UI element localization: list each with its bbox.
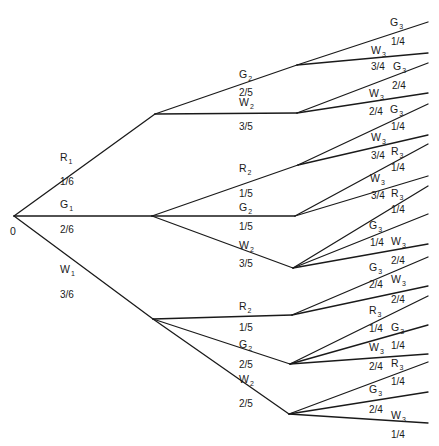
prob-level3-3: 2/4 [369, 107, 383, 117]
event-letter: R [391, 187, 399, 199]
draw-index: 3 [402, 67, 406, 74]
prob-R1: 1/6 [60, 177, 74, 187]
prob-level3-11: 2/4 [369, 280, 383, 290]
prob-G1-W2: 3/5 [239, 259, 253, 269]
branch-level3-17 [289, 392, 428, 414]
event-letter: G [369, 219, 377, 231]
event-letter: R [391, 145, 399, 157]
draw-index: 1 [71, 270, 75, 277]
label-W1-G2: G2 [239, 339, 252, 352]
branch-level2-G1-R2 [152, 165, 298, 216]
prob-R1-W2: 3/5 [239, 122, 253, 132]
label-level3-5: W3 [371, 132, 386, 145]
draw-index: 2 [248, 208, 252, 215]
draw-index: 3 [380, 348, 384, 355]
draw-index: 1 [69, 158, 73, 165]
event-letter: R [239, 162, 247, 174]
label-level3-10: W3 [391, 236, 406, 249]
event-letter: G [60, 198, 68, 210]
branch-level3-16 [289, 362, 428, 414]
label-level3-13: R3 [369, 305, 382, 318]
draw-index: 3 [378, 311, 382, 318]
label-level3-2: G3 [393, 61, 406, 74]
label-level3-9: G3 [369, 220, 382, 233]
prob-level3-5: 3/4 [371, 151, 385, 161]
event-letter: W [391, 409, 401, 421]
draw-index: 3 [400, 328, 404, 335]
draw-index: 2 [248, 169, 252, 176]
draw-index: 3 [402, 242, 406, 249]
branch-level3-15 [290, 354, 428, 364]
event-letter: R [391, 357, 399, 369]
event-letter: G [393, 60, 401, 72]
label-level3-12: W3 [391, 274, 406, 287]
draw-index: 3 [400, 364, 404, 371]
prob-level3-4: 1/4 [391, 122, 405, 132]
event-letter: W [239, 239, 249, 251]
prob-G1-R2: 1/5 [239, 189, 253, 199]
prob-level3-15: 2/4 [369, 362, 383, 372]
label-R1: R1 [60, 152, 73, 165]
label-level3-11: G3 [369, 262, 382, 275]
prob-level3-12: 2/4 [391, 295, 405, 305]
draw-index: 3 [378, 390, 382, 397]
prob-level3-8: 1/4 [391, 205, 405, 215]
label-level3-17: G3 [369, 384, 382, 397]
event-letter: G [369, 261, 377, 273]
label-level3-6: R3 [391, 146, 404, 159]
prob-level3-9: 1/4 [370, 238, 384, 248]
event-letter: G [391, 321, 399, 333]
event-letter: W [370, 172, 380, 184]
label-level3-14: G3 [391, 322, 404, 335]
branch-level3-4 [298, 104, 428, 165]
draw-index: 3 [399, 23, 403, 30]
branch-level2-G1-W2 [152, 216, 293, 268]
event-letter: W [391, 273, 401, 285]
branch-level3-12 [292, 286, 428, 315]
event-letter: R [60, 151, 68, 163]
event-letter: W [371, 44, 381, 56]
draw-index: 3 [400, 194, 404, 201]
event-letter: W [369, 87, 379, 99]
branch-level3-18 [289, 414, 428, 423]
event-letter: W [60, 263, 70, 275]
branch-level2-W1-W2 [153, 319, 289, 414]
label-G1-G2: G2 [239, 202, 252, 215]
label-level3-0: G3 [390, 17, 403, 30]
label-level3-15: W3 [369, 342, 384, 355]
branch-level3-9 [293, 214, 428, 268]
label-level3-4: G3 [390, 104, 403, 117]
label-level3-18: W3 [391, 410, 406, 423]
prob-level3-18: 1/4 [391, 430, 405, 440]
branch-level3-7 [295, 176, 428, 216]
event-letter: W [391, 235, 401, 247]
prob-level3-6: 1/4 [391, 163, 405, 173]
label-level3-7: W3 [370, 173, 385, 186]
event-letter: G [390, 103, 398, 115]
branch-level3-14 [290, 325, 428, 364]
draw-index: 3 [402, 280, 406, 287]
event-letter: G [369, 383, 377, 395]
label-level3-16: R3 [391, 358, 404, 371]
prob-G1-G2: 1/5 [239, 222, 253, 232]
prob-level3-13: 1/4 [369, 324, 383, 334]
prob-level3-17: 2/4 [369, 405, 383, 415]
label-R1-G2: G2 [239, 69, 252, 82]
event-letter: G [239, 201, 247, 213]
draw-index: 3 [378, 226, 382, 233]
root-label: 0 [10, 226, 16, 237]
label-level3-3: W3 [369, 88, 384, 101]
label-G1-W2: W2 [239, 240, 254, 253]
event-letter: G [239, 338, 247, 350]
branch-level2-W1-R2 [153, 315, 292, 319]
draw-index: 2 [248, 307, 252, 314]
label-W1-R2: R2 [239, 301, 252, 314]
label-level3-8: R3 [391, 188, 404, 201]
prob-level3-16: 1/4 [391, 377, 405, 387]
prob-level3-14: 1/4 [391, 341, 405, 351]
prob-W1: 3/6 [60, 290, 74, 300]
prob-W1-R2: 1/5 [239, 323, 253, 333]
draw-index: 2 [248, 345, 252, 352]
event-letter: G [390, 16, 398, 28]
draw-index: 3 [399, 110, 403, 117]
